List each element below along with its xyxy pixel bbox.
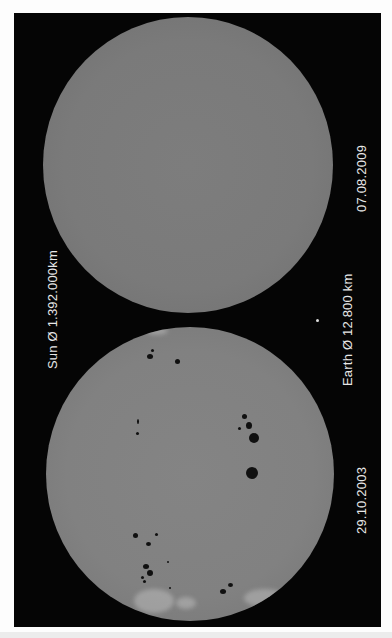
sunspot	[147, 354, 153, 359]
sunspot	[155, 533, 158, 536]
sun-disk-2009	[43, 17, 333, 313]
sunspot	[147, 570, 153, 576]
bottom-strip	[0, 632, 392, 638]
earth-diameter-label: Earth Ø 12.800 km	[340, 273, 355, 386]
sunspot	[141, 576, 144, 579]
facula	[176, 597, 196, 609]
sun-comparison-figure: Sun Ø 1.392.000km Earth Ø 12.800 km 07.0…	[0, 0, 392, 638]
sunspot	[246, 422, 252, 429]
sunspot	[220, 589, 226, 594]
sunspot	[249, 433, 259, 443]
sunspot	[136, 432, 139, 435]
sun-diameter-label: Sun Ø 1.392.000km	[45, 250, 60, 369]
sunspot	[238, 427, 241, 430]
sunspot	[137, 419, 139, 424]
facula	[244, 589, 286, 607]
facula	[134, 589, 174, 613]
sunspot	[169, 587, 171, 589]
sunspot	[133, 533, 138, 538]
sunspot	[143, 564, 149, 569]
sunspot	[242, 414, 247, 419]
facula	[146, 327, 168, 335]
sun-disk-2003	[46, 327, 334, 621]
date-label-2009: 07.08.2009	[354, 145, 369, 212]
sunspot	[167, 561, 169, 563]
sunspot	[151, 349, 154, 352]
sunspot	[146, 542, 151, 546]
black-photo-frame: Sun Ø 1.392.000km Earth Ø 12.800 km 07.0…	[14, 13, 381, 627]
sunspot	[143, 580, 146, 583]
date-label-2003: 29.10.2003	[354, 467, 369, 534]
earth-scale-dot	[316, 319, 319, 322]
sunspot	[228, 583, 233, 587]
sunspot	[246, 467, 258, 479]
sunspot	[175, 359, 180, 364]
